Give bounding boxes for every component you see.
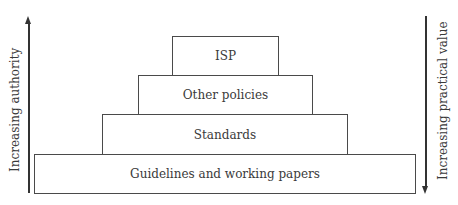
right-axis-label: Increasing practical value (436, 22, 450, 180)
arrow-down-icon (422, 186, 428, 194)
level-label: Other policies (183, 88, 268, 102)
level-isp: ISP (172, 36, 279, 76)
level-other-policies: Other policies (138, 75, 313, 115)
level-label: ISP (215, 49, 236, 63)
level-guidelines: Guidelines and working papers (34, 154, 416, 194)
level-label: Standards (194, 128, 256, 142)
practical-value-arrow-line (425, 16, 427, 188)
authority-arrow-line (28, 22, 30, 193)
left-axis-label: Increasing authority (8, 48, 22, 172)
level-label: Guidelines and working papers (130, 167, 320, 181)
level-standards: Standards (102, 114, 348, 155)
